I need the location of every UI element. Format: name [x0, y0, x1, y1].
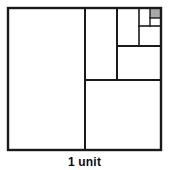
region-square-4	[117, 46, 161, 80]
figure-container: 1 unit	[0, 0, 169, 170]
region-square-1	[8, 8, 85, 150]
region-square-6	[139, 26, 161, 46]
region-square-7	[139, 8, 150, 26]
region-square-2	[85, 80, 161, 150]
square-subdivision-diagram	[0, 0, 169, 170]
region-square-3	[85, 8, 117, 80]
region-square-5	[117, 8, 139, 46]
unit-length-label: 1 unit	[68, 154, 101, 170]
caption-row: 1 unit	[0, 152, 169, 170]
region-square-8-highlighted	[150, 8, 161, 18]
